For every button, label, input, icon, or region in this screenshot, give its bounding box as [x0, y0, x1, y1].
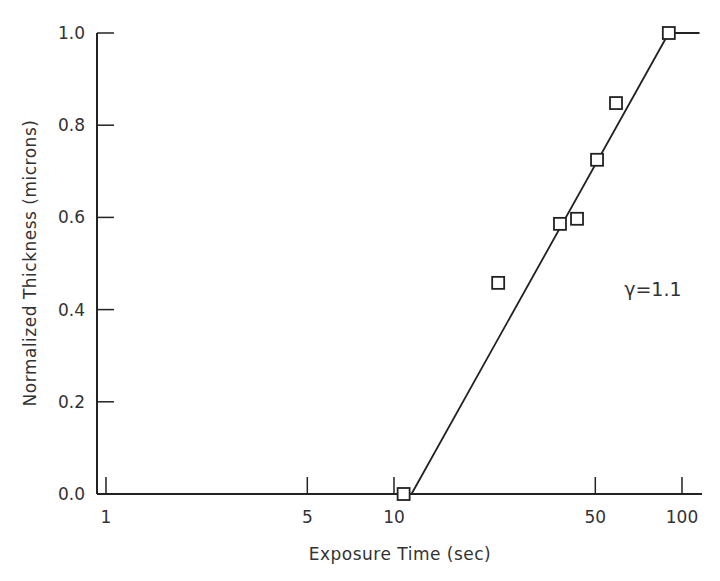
gamma-annotation: γ=1.1	[624, 278, 681, 300]
x-tick-label: 50	[584, 507, 606, 527]
data-point-marker	[398, 488, 410, 500]
y-axis-label: Normalized Thickness (microns)	[20, 120, 40, 407]
data-point-marker	[663, 27, 675, 39]
contrast-curve-chart: 0.00.20.40.60.81.0 151050100 γ=1.1 Expos…	[0, 0, 720, 581]
y-tick-label: 0.0	[58, 484, 85, 504]
data-point-marker	[554, 218, 566, 230]
data-point-marker	[571, 213, 583, 225]
data-point-marker	[591, 154, 603, 166]
x-tick-label: 100	[666, 507, 698, 527]
data-point-marker	[492, 277, 504, 289]
x-tick-label: 1	[101, 507, 112, 527]
data-point-marker	[610, 97, 622, 109]
y-tick-label: 0.6	[58, 207, 85, 227]
y-tick-label: 0.2	[58, 392, 85, 412]
x-axis-label: Exposure Time (sec)	[309, 544, 492, 564]
x-ticks: 151050100	[101, 477, 699, 527]
x-tick-label: 5	[302, 507, 313, 527]
y-ticks: 0.00.20.40.60.81.0	[58, 23, 114, 504]
y-tick-label: 1.0	[58, 23, 85, 43]
y-tick-label: 0.8	[58, 115, 85, 135]
x-tick-label: 10	[383, 507, 405, 527]
y-tick-label: 0.4	[58, 300, 85, 320]
